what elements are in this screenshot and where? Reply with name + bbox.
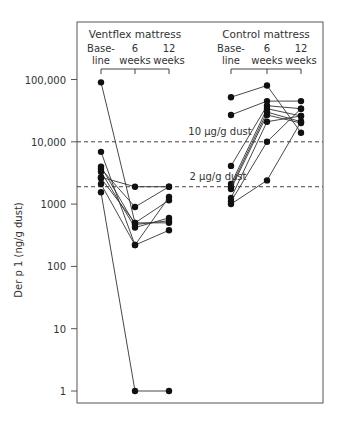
group-ventflex: Ventflex mattressBase-line6weeks12weeks [87,28,185,394]
data-point [98,181,104,187]
y-axis-label: Der p 1 (ng/g dust) [13,202,24,298]
plot-frame [77,22,323,403]
data-point [298,105,304,111]
data-point [166,184,172,190]
group-title: Control mattress [222,28,310,40]
data-point [166,227,172,233]
data-point [98,189,104,195]
data-point [228,112,234,118]
data-point [132,184,138,190]
data-point [264,177,270,183]
timepoint-label: 12 [295,43,308,54]
data-point [132,204,138,210]
data-point [298,113,304,119]
data-point [228,163,234,169]
chart: 100,00010,0001000100101 Der p 1 (ng/g du… [0,0,340,425]
data-point [132,388,138,394]
y-axis: 100,00010,0001000100101 [25,75,77,398]
data-point [228,201,234,207]
timepoint-label: 12 [163,43,176,54]
data-point [98,79,104,85]
timepoint-label: line [222,55,240,66]
timepoint-label: Base- [217,43,245,54]
y-tick-label: 100 [47,261,66,272]
data-point [166,194,172,200]
data-point [298,98,304,104]
timepoint-label: 6 [132,43,138,54]
data-point [264,119,270,125]
data-point [264,82,270,88]
data-point [132,220,138,226]
group-title: Ventflex mattress [89,28,181,40]
data-groups: Ventflex mattressBase-line6weeks12weeksC… [87,28,317,394]
data-point [166,220,172,226]
data-point [228,186,234,192]
timepoint-label: 6 [264,43,270,54]
reference-line-label: 10 µg/g dust [188,126,251,137]
timepoint-label: Base- [87,43,115,54]
data-point [132,242,138,248]
data-point [298,129,304,135]
y-tick-label: 1 [60,386,66,397]
data-point [228,94,234,100]
timepoint-label: weeks [119,55,150,66]
timepoint-label: line [92,55,110,66]
timepoint-label: weeks [251,55,282,66]
timepoint-label: weeks [285,55,316,66]
y-tick-label: 10 [53,324,66,335]
data-point [98,149,104,155]
y-tick-label: 1000 [41,199,66,210]
data-point [264,139,270,145]
timepoint-label: weeks [153,55,184,66]
subject-line [101,152,169,245]
subject-line [101,167,169,225]
data-point [98,175,104,181]
y-tick-label: 10,000 [31,137,66,148]
data-point [264,112,270,118]
data-point [298,119,304,125]
y-tick-label: 100,000 [25,75,66,86]
data-point [166,388,172,394]
